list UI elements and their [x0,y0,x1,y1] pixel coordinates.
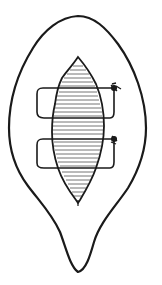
knot-icon-2 [111,136,117,144]
outer-outline [9,16,146,272]
knot-icon-1 [111,83,121,91]
diagram-svg [0,0,162,285]
suture-diagram: wound closed with two horizontal mattres… [0,0,162,285]
